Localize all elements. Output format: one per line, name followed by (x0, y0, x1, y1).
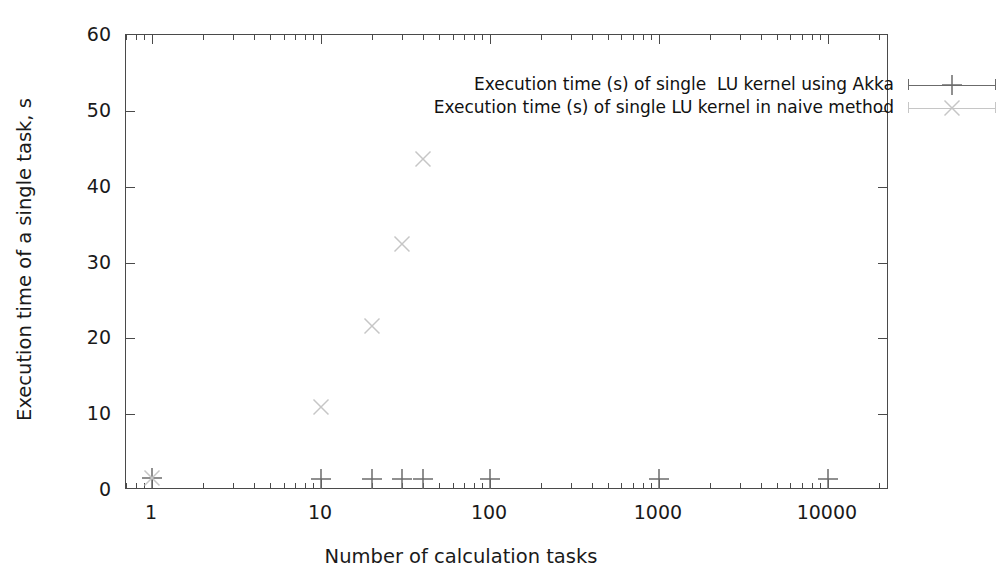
x-tick-minor (643, 35, 644, 40)
data-point-cross (391, 233, 413, 255)
x-tick-minor (571, 483, 572, 488)
x-tick-minor (372, 483, 373, 488)
x-tick-label: 10 (308, 501, 332, 523)
x-tick-minor (633, 483, 634, 488)
x-tick-minor (608, 35, 609, 40)
x-tick-major (490, 35, 491, 44)
legend-sample-cross (904, 98, 1000, 118)
x-tick-minor (621, 35, 622, 40)
data-point-cross (361, 315, 383, 337)
x-tick-minor (464, 483, 465, 488)
x-tick-minor (305, 35, 306, 40)
x-tick-minor (790, 483, 791, 488)
chart-legend: Execution time (s) of single LU kernel u… (274, 73, 1000, 119)
x-tick-label: 10000 (797, 501, 857, 523)
legend-line-cap (908, 79, 909, 90)
x-axis-title: Number of calculation tasks (0, 545, 922, 568)
x-tick-minor (203, 483, 204, 488)
legend-marker-cross (941, 97, 963, 119)
x-tick-major (828, 479, 829, 488)
x-tick-minor (633, 35, 634, 40)
x-tick-major (490, 479, 491, 488)
x-tick-minor (710, 35, 711, 40)
x-tick-major (828, 35, 829, 44)
y-tick-label: 0 (0, 478, 111, 500)
x-tick-minor (482, 483, 483, 488)
y-tick (878, 414, 887, 415)
x-tick-minor (474, 35, 475, 40)
x-tick-minor (423, 35, 424, 40)
x-tick-major (321, 479, 322, 488)
x-tick-minor (651, 483, 652, 488)
x-tick-minor (710, 483, 711, 488)
x-tick-minor (643, 483, 644, 488)
x-tick-minor (402, 35, 403, 40)
legend-entry: Execution time (s) of single LU kernel u… (274, 73, 1000, 96)
x-tick-minor (136, 483, 137, 488)
x-tick-label: 1 (145, 501, 157, 523)
x-tick-minor (740, 35, 741, 40)
legend-label: Execution time (s) of single LU kernel i… (434, 96, 894, 119)
x-tick-minor (402, 483, 403, 488)
y-tick (126, 263, 135, 264)
x-tick-minor (820, 35, 821, 40)
legend-entry: Execution time (s) of single LU kernel i… (274, 96, 1000, 119)
y-tick (126, 111, 135, 112)
x-tick-minor (313, 483, 314, 488)
x-tick-minor (879, 483, 880, 488)
x-tick-minor (777, 483, 778, 488)
x-tick-minor (464, 35, 465, 40)
x-tick-minor (790, 35, 791, 40)
x-tick-minor (144, 35, 145, 40)
x-tick-major (321, 35, 322, 44)
x-tick-minor (621, 483, 622, 488)
x-tick-minor (254, 483, 255, 488)
x-tick-minor (439, 483, 440, 488)
x-tick-minor (812, 483, 813, 488)
legend-line-cap (908, 102, 909, 113)
x-tick-minor (313, 35, 314, 40)
x-tick-minor (136, 35, 137, 40)
y-tick (878, 263, 887, 264)
x-tick-minor (295, 35, 296, 40)
y-tick-label: 10 (0, 402, 111, 424)
y-tick (126, 338, 135, 339)
x-tick-minor (812, 35, 813, 40)
x-tick-label: 1000 (634, 501, 682, 523)
y-tick-label: 20 (0, 326, 111, 348)
legend-marker-plus (941, 74, 963, 96)
x-tick-minor (541, 35, 542, 40)
x-tick-minor (144, 483, 145, 488)
x-tick-minor (126, 35, 127, 40)
y-tick (126, 187, 135, 188)
x-tick-major (152, 35, 153, 44)
y-tick-label: 30 (0, 251, 111, 273)
y-tick-label: 60 (0, 23, 111, 45)
data-point-cross (412, 148, 434, 170)
x-tick-minor (608, 483, 609, 488)
x-tick-minor (453, 35, 454, 40)
x-tick-minor (284, 483, 285, 488)
x-tick-minor (761, 35, 762, 40)
x-tick-minor (270, 35, 271, 40)
x-tick-minor (284, 35, 285, 40)
x-tick-minor (423, 483, 424, 488)
x-tick-minor (474, 483, 475, 488)
x-tick-minor (541, 483, 542, 488)
x-tick-minor (651, 35, 652, 40)
plot-area: Execution time (s) of single LU kernel u… (125, 34, 888, 489)
x-tick-minor (270, 483, 271, 488)
x-tick-minor (372, 35, 373, 40)
x-tick-major (659, 479, 660, 488)
y-tick-label: 40 (0, 175, 111, 197)
legend-line-cap (995, 102, 996, 113)
legend-label: Execution time (s) of single LU kernel u… (474, 73, 894, 96)
x-tick-minor (592, 35, 593, 40)
x-tick-minor (740, 483, 741, 488)
x-tick-minor (254, 35, 255, 40)
x-tick-major (659, 35, 660, 44)
x-tick-minor (453, 483, 454, 488)
x-tick-label: 100 (471, 501, 507, 523)
legend-sample-plus (904, 75, 1000, 95)
